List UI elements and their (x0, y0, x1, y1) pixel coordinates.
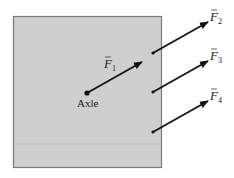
force-label-f2: F2 (209, 9, 222, 26)
force-label-f3: F3 (209, 48, 222, 65)
force-label-f4: F4 (209, 88, 222, 105)
axle-label: Axle (77, 97, 99, 109)
force-diagram: Axle F1 F2 F3 F4 (0, 0, 234, 178)
